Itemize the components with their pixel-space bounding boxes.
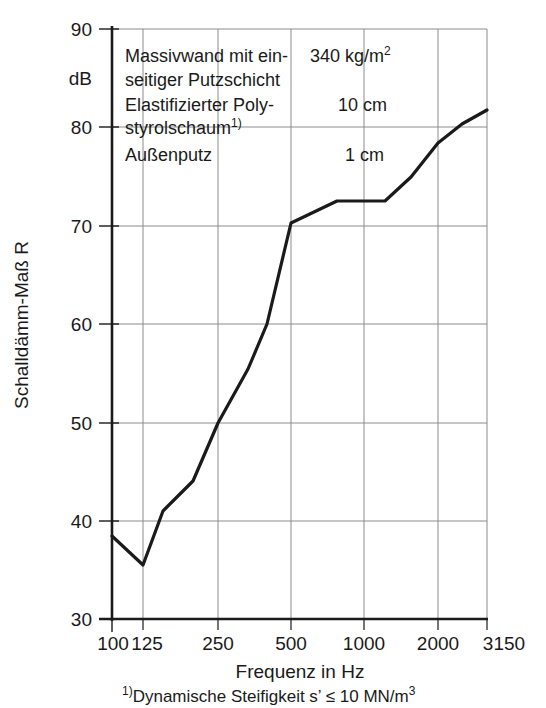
x-axis-title: Frequenz in Hz (236, 661, 365, 682)
footnote-marker: 1) (122, 684, 133, 698)
x-tick-label-125: 125 (131, 633, 163, 654)
legend-row-1-line2-text: styrolschaum (125, 118, 231, 138)
y-axis-unit-label: dB (69, 68, 92, 89)
legend-row-0-line2: seitiger Putzschicht (125, 70, 280, 90)
x-tick-label-3150: 3150 (483, 633, 525, 654)
legend-row-0-value: 340 kg/m2 (310, 44, 391, 66)
x-tick-label-1000: 1000 (343, 633, 385, 654)
y-tick-label-70: 70 (71, 216, 92, 237)
legend-row-2-value: 1 cm (345, 145, 384, 165)
x-tick-label-500: 500 (275, 633, 307, 654)
y-tick-label-50: 50 (71, 413, 92, 434)
x-tick-label-250: 250 (202, 633, 234, 654)
legend-row-0-value-text: 340 kg/m (310, 46, 384, 66)
x-tick-label-2000: 2000 (417, 633, 459, 654)
chart-footnote: 1)Dynamische Steifigkeit s’ ≤ 10 MN/m3 (122, 684, 416, 706)
y-tick-label-30: 30 (71, 609, 92, 630)
legend-row-1-footnote-marker: 1) (231, 116, 242, 130)
sound-insulation-line-chart: 90 80 70 60 50 40 30 dB 100 125 250 500 … (0, 0, 546, 708)
legend-row-0-line1: Massivwand mit ein- (125, 46, 288, 66)
legend-row-1-value: 10 cm (338, 95, 387, 115)
legend-row-1-line1: Elastifizierter Poly- (125, 95, 274, 115)
legend-row-1-line2: styrolschaum1) (125, 116, 242, 138)
footnote-text: Dynamische Steifigkeit s’ ≤ 10 MN/m (133, 687, 409, 706)
legend-row-2-line1: Außenputz (125, 145, 212, 165)
chart-figure: 90 80 70 60 50 40 30 dB 100 125 250 500 … (0, 0, 546, 708)
y-tick-label-90: 90 (71, 19, 92, 40)
footnote-superscript: 3 (409, 684, 416, 698)
x-tick-label-100: 100 (97, 633, 129, 654)
legend-row-0-value-superscript: 2 (384, 44, 391, 58)
y-tick-label-40: 40 (71, 511, 92, 532)
y-tick-label-80: 80 (71, 117, 92, 138)
y-axis-title: Schalldämm-Maß R (11, 241, 32, 409)
y-tick-label-60: 60 (71, 314, 92, 335)
